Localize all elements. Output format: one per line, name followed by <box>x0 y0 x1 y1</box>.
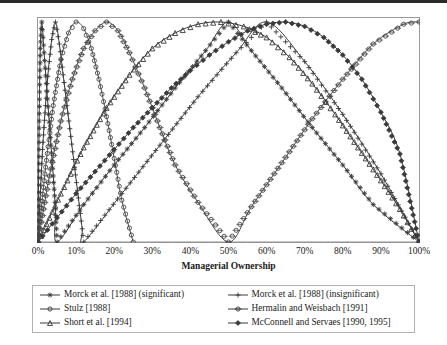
data-point-marker <box>318 105 325 109</box>
data-point-marker <box>37 97 42 102</box>
data-point-marker <box>115 29 122 33</box>
data-point-marker <box>290 144 297 148</box>
x-tick-label-50: 50% <box>209 246 249 256</box>
data-point-marker <box>301 114 306 119</box>
data-point-marker <box>394 221 399 226</box>
data-point-marker <box>99 179 104 184</box>
data-point-marker <box>411 212 416 217</box>
data-point-marker <box>37 133 42 138</box>
data-point-marker <box>125 146 130 151</box>
data-point-marker <box>336 157 341 162</box>
data-point-marker <box>141 86 148 90</box>
data-point-marker <box>286 150 293 154</box>
data-point-marker <box>66 119 71 124</box>
data-point-marker <box>172 163 179 167</box>
data-point-marker <box>46 104 51 109</box>
data-point-marker <box>278 161 285 165</box>
data-point-marker <box>141 56 146 61</box>
data-point-marker <box>362 191 367 196</box>
star-marker-icon <box>39 290 61 300</box>
data-point-marker <box>37 126 42 131</box>
data-point-marker <box>226 39 231 44</box>
legend-item[interactable]: Short et al. [1994] <box>39 318 227 328</box>
data-point-marker <box>42 50 47 55</box>
data-point-marker <box>314 130 319 135</box>
data-point-marker <box>42 125 47 130</box>
x-tick-label-0: 0% <box>18 246 58 256</box>
data-point-marker <box>80 46 87 50</box>
data-point-marker <box>313 111 320 115</box>
data-point-marker <box>120 152 125 157</box>
data-point-marker <box>116 157 121 162</box>
legend-item[interactable]: Stulz [1988] <box>39 304 227 314</box>
data-point-marker <box>37 104 42 109</box>
data-point-marker <box>66 223 71 228</box>
data-point-marker <box>263 183 270 187</box>
data-point-marker <box>41 140 46 145</box>
data-point-marker <box>52 187 57 192</box>
data-point-marker <box>279 86 284 91</box>
legend-item[interactable]: Morck et al. [1988] (insignificant) <box>227 290 415 300</box>
data-point-marker <box>282 155 289 159</box>
data-point-marker <box>37 75 42 80</box>
x-tick-label-100: 100% <box>399 246 439 256</box>
chart-legend: Morck et al. [1988] (significant)Morck e… <box>32 285 415 333</box>
data-point-marker <box>126 51 133 55</box>
data-point-marker <box>259 188 266 192</box>
data-point-marker <box>394 26 401 30</box>
data-point-marker <box>389 134 394 139</box>
data-point-marker <box>349 174 354 179</box>
data-point-marker <box>52 193 57 198</box>
data-point-marker <box>48 293 53 298</box>
data-point-marker <box>58 234 63 239</box>
data-point-marker <box>168 91 173 96</box>
data-point-marker <box>297 133 304 137</box>
data-point-marker <box>309 117 316 121</box>
data-point-marker <box>37 111 42 116</box>
plot-area <box>37 17 420 243</box>
legend-item[interactable]: Hermalin and Weisbach [1991] <box>227 304 415 314</box>
data-point-marker <box>335 83 342 87</box>
x-axis-tick-labels: 0%10%20%30%40%50%60%70%80%90%100% <box>37 246 420 262</box>
data-point-marker <box>68 134 73 139</box>
data-point-marker <box>244 42 249 47</box>
data-point-marker <box>399 158 404 163</box>
data-point-marker <box>240 37 245 42</box>
data-point-marker <box>156 126 163 130</box>
data-point-marker <box>302 24 307 29</box>
data-point-marker <box>54 226 59 231</box>
data-point-marker <box>267 177 274 181</box>
diamond-marker-icon <box>227 318 249 328</box>
data-point-marker <box>62 229 67 234</box>
data-point-marker <box>212 37 217 42</box>
legend-item[interactable]: McConnell and Servaes [1990, 1995] <box>227 318 415 328</box>
data-point-marker <box>56 34 61 39</box>
data-point-marker <box>67 126 72 131</box>
data-point-marker <box>46 66 51 71</box>
data-point-marker <box>69 142 74 147</box>
data-point-marker <box>358 185 363 190</box>
data-point-marker <box>208 42 213 47</box>
legend-item[interactable]: Morck et al. [1988] (significant) <box>39 290 227 300</box>
data-point-marker <box>366 196 371 201</box>
data-point-marker <box>47 59 52 64</box>
data-point-marker <box>41 132 46 137</box>
data-point-marker <box>400 165 405 170</box>
data-point-marker <box>339 77 346 81</box>
data-point-marker <box>74 180 79 185</box>
data-point-marker <box>275 166 282 170</box>
data-point-marker <box>164 97 169 102</box>
data-point-marker <box>48 44 53 49</box>
data-point-marker <box>53 20 58 25</box>
x-tick-label-30: 30% <box>132 246 172 256</box>
x-tick-label-90: 90% <box>361 246 401 256</box>
data-point-marker <box>370 42 377 46</box>
data-point-marker <box>81 202 86 207</box>
data-point-marker <box>271 172 278 176</box>
data-point-marker <box>292 102 297 107</box>
data-point-marker <box>414 226 419 231</box>
data-point-marker <box>49 37 54 42</box>
data-point-marker <box>388 216 393 221</box>
data-point-marker <box>195 200 202 204</box>
data-point-marker <box>40 147 45 152</box>
